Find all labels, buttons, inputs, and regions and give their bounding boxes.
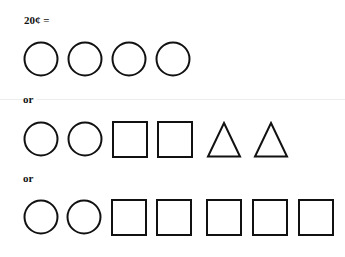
triangle-icon bbox=[253, 121, 289, 158]
square-icon bbox=[252, 199, 288, 236]
circle-icon bbox=[23, 199, 59, 235]
circle-icon bbox=[23, 121, 59, 157]
circle-icon bbox=[67, 41, 103, 77]
square-icon bbox=[156, 199, 192, 236]
square-icon bbox=[206, 199, 242, 236]
square-icon bbox=[111, 199, 147, 236]
equation-label: 20¢ = bbox=[24, 15, 50, 26]
square-icon bbox=[112, 121, 148, 158]
triangle-icon bbox=[206, 121, 242, 158]
circle-icon bbox=[23, 41, 59, 77]
circle-icon bbox=[155, 41, 191, 77]
divider-line bbox=[0, 99, 345, 100]
square-icon bbox=[157, 121, 193, 158]
circle-icon bbox=[111, 41, 147, 77]
separator-or-2: or bbox=[23, 173, 33, 184]
circle-icon bbox=[67, 121, 103, 157]
separator-or-1: or bbox=[23, 94, 37, 105]
square-icon bbox=[298, 199, 334, 236]
circle-icon bbox=[66, 199, 102, 235]
